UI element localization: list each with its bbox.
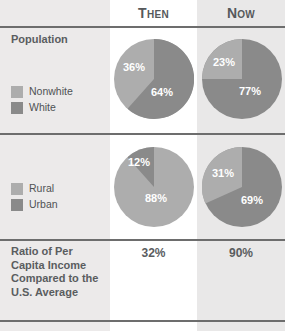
pie-label-urban: 69% [241,194,263,206]
row-label-income-ratio: Ratio of Per Capita Income Compared to t… [11,245,107,299]
ratio-value-now: 90% [197,245,285,261]
pie-svg: 23% 77% [202,39,282,119]
column-header-then: Then [110,3,197,24]
ratio-value-then: 32% [110,245,197,261]
row-divider-1 [0,133,285,135]
legend-swatch-nonwhite [11,86,23,98]
legend-rural-urban: Rural Urban [11,181,107,213]
legend-item: White [11,100,107,115]
legend-item: Nonwhite [11,84,107,99]
pie-chart-population-then: 36% 64% [114,39,194,119]
legend-label-nonwhite: Nonwhite [29,85,73,98]
pie-label-nonwhite: 36% [123,61,145,73]
header-divider [0,26,285,28]
pie-label-urban: 12% [128,156,150,168]
pie-chart-rural-urban-then: 12% 88% [114,147,194,227]
pie-svg: 12% 88% [114,147,194,227]
pie-chart-population-now: 23% 77% [202,39,282,119]
legend-label-rural: Rural [29,182,54,195]
pie-label-rural: 88% [145,192,167,204]
legend-item: Urban [11,197,107,212]
legend-population: Nonwhite White [11,84,107,116]
legend-swatch-rural [11,183,23,195]
bottom-divider [0,320,285,322]
legend-label-white: White [29,101,56,114]
row-divider-2 [0,239,285,241]
legend-item: Rural [11,181,107,196]
pie-label-nonwhite: 23% [213,56,235,68]
legend-swatch-white [11,102,23,114]
legend-label-urban: Urban [29,198,58,211]
pie-svg: 31% 69% [202,147,282,227]
pie-label-white: 77% [239,85,261,97]
pie-label-rural: 31% [212,167,234,179]
row-label-population: Population [11,33,107,47]
pie-svg: 36% 64% [114,39,194,119]
comparison-chart-table: Then Now Population Nonwhite White 36% 6… [0,0,285,331]
column-header-now: Now [197,3,285,24]
legend-swatch-urban [11,199,23,211]
pie-label-white: 64% [151,86,173,98]
pie-chart-rural-urban-now: 31% 69% [202,147,282,227]
